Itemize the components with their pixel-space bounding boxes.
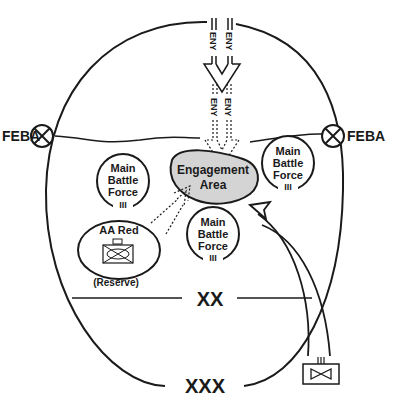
feba-left-label: FEBA bbox=[2, 128, 40, 144]
corps-boundary-label: XXX bbox=[185, 375, 226, 397]
main-battle-force-center: Main Battle Force III bbox=[187, 207, 239, 263]
main-battle-force-right: Main Battle Force III bbox=[262, 136, 314, 192]
unit-label: Main bbox=[200, 216, 225, 228]
engagement-area-line1: Engagement bbox=[177, 163, 249, 177]
enemy-label-4: ENY bbox=[223, 98, 233, 117]
corps-boundary-oval bbox=[46, 22, 343, 386]
enemy-label-3: ENY bbox=[209, 98, 219, 117]
feba-right-label: FEBA bbox=[347, 128, 385, 144]
unit-label: Battle bbox=[198, 228, 229, 240]
unit-label: Force bbox=[108, 186, 138, 198]
reserve-caption: (Reserve) bbox=[93, 277, 139, 288]
counterattack-arrow bbox=[250, 202, 330, 356]
main-battle-force-left: Main Battle Force III bbox=[97, 154, 149, 210]
counterattack-unit-icon bbox=[303, 357, 339, 384]
unit-label: Force bbox=[273, 169, 303, 181]
reserve-title: AA Red bbox=[99, 224, 138, 236]
support-arrows-dashed bbox=[151, 186, 190, 234]
unit-label: Battle bbox=[273, 157, 304, 169]
unit-label: Main bbox=[110, 162, 135, 174]
unit-label: Battle bbox=[108, 174, 139, 186]
engagement-area-line2: Area bbox=[200, 178, 227, 192]
battle-diagram: XXX XX FEBA FEBA ENY ENY EN bbox=[0, 0, 393, 411]
echelon-label: III bbox=[119, 200, 127, 210]
echelon-label: III bbox=[209, 253, 217, 263]
enemy-label-1: ENY bbox=[208, 32, 218, 51]
division-boundary-label: XX bbox=[197, 288, 224, 310]
reserve-assembly-area: AA Red (Reserve) bbox=[78, 221, 160, 288]
unit-label: Main bbox=[275, 145, 300, 157]
unit-label: Force bbox=[198, 240, 228, 252]
feba-right-marker-icon bbox=[322, 125, 344, 147]
enemy-label-2: ENY bbox=[224, 32, 234, 51]
echelon-label: III bbox=[284, 182, 292, 192]
